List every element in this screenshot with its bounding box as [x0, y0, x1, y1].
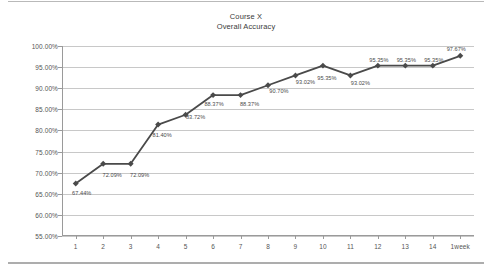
x-axis-tick	[350, 236, 351, 239]
data-point-label: 97.67%	[447, 46, 466, 52]
x-axis-tick-label: 14	[429, 243, 436, 251]
data-point-label: 95.35%	[369, 57, 388, 63]
x-axis-tick-label: 12	[374, 243, 381, 251]
chart-page: Course X Overall Accuracy 100.00%95.00%9…	[0, 0, 492, 276]
y-axis-tick-label: 85.00%	[4, 106, 58, 113]
y-axis-tick	[58, 236, 62, 237]
y-axis-tick-label: 75.00%	[4, 148, 58, 155]
top-divider-rule	[8, 1, 484, 2]
chart-title-line2: Overall Accuracy	[0, 22, 492, 32]
accuracy-line-series	[62, 46, 474, 236]
y-axis-tick-label: 80.00%	[4, 127, 58, 134]
x-axis-tick	[295, 236, 296, 239]
x-axis-tick	[405, 236, 406, 239]
data-point-marker	[293, 73, 299, 79]
data-point-marker	[402, 63, 408, 69]
data-point-label: 83.72%	[186, 114, 205, 120]
data-point-label: 90.70%	[269, 88, 288, 94]
x-axis-tick-label: 13	[402, 243, 409, 251]
x-axis-tick	[186, 236, 187, 239]
data-point-label: 95.35%	[317, 75, 336, 81]
y-axis-labels: 100.00%95.00%90.00%85.00%80.00%75.00%70.…	[0, 46, 58, 236]
chart-title-block: Course X Overall Accuracy	[0, 12, 492, 32]
data-point-marker	[430, 63, 436, 69]
y-axis-tick-label: 65.00%	[4, 190, 58, 197]
x-axis-tick	[103, 236, 104, 239]
x-axis-tick-label: 9	[294, 243, 298, 251]
bottom-divider-rule	[8, 262, 484, 264]
data-point-marker	[347, 73, 353, 79]
x-axis-tick-label: 4	[156, 243, 160, 251]
y-axis-tick-label: 95.00%	[4, 64, 58, 71]
plot-area: 67.44%72.09%72.09%81.40%83.72%88.37%88.3…	[62, 46, 474, 236]
data-point-label: 72.09%	[103, 172, 122, 178]
x-axis-tick-label: 2	[101, 243, 105, 251]
x-axis-tick	[213, 236, 214, 239]
x-axis-tick	[460, 236, 461, 239]
data-point-label: 93.02%	[296, 79, 315, 85]
x-axis-tick-label: 1	[74, 243, 78, 251]
data-point-marker	[375, 63, 381, 69]
y-axis-tick-label: 60.00%	[4, 211, 58, 218]
x-axis-tick	[241, 236, 242, 239]
x-axis-tick-label: 11	[347, 243, 354, 251]
data-point-label: 67.44%	[72, 190, 91, 196]
data-point-label: 81.40%	[152, 132, 171, 138]
x-axis-tick	[323, 236, 324, 239]
data-point-label: 88.37%	[204, 101, 223, 107]
x-axis-tick	[158, 236, 159, 239]
x-axis-tick-label: 1week	[451, 243, 470, 251]
data-point-label: 88.37%	[240, 101, 259, 107]
x-axis-tick-label: 8	[266, 243, 270, 251]
x-axis-tick	[378, 236, 379, 239]
x-axis-tick-label: 7	[239, 243, 243, 251]
data-point-label: 95.35%	[424, 57, 443, 63]
x-axis-tick	[268, 236, 269, 239]
chart-title-line1: Course X	[230, 12, 262, 21]
data-point-marker	[320, 63, 326, 69]
data-point-marker	[238, 92, 244, 98]
x-axis-tick-label: 5	[184, 243, 188, 251]
x-axis-tick	[131, 236, 132, 239]
data-point-label: 93.02%	[351, 80, 370, 86]
x-axis-tick-label: 10	[319, 243, 326, 251]
data-point-marker	[457, 53, 463, 59]
y-axis-tick-label: 55.00%	[4, 233, 58, 240]
x-axis-tick-label: 3	[129, 243, 133, 251]
x-axis-tick	[433, 236, 434, 239]
x-axis-tick-label: 6	[211, 243, 215, 251]
x-axis-tick	[76, 236, 77, 239]
data-point-label: 72.09%	[130, 172, 149, 178]
y-axis-tick-label: 100.00%	[4, 43, 58, 50]
y-axis-tick-label: 70.00%	[4, 169, 58, 176]
data-point-label: 95.35%	[397, 57, 416, 63]
y-axis-tick-label: 90.00%	[4, 85, 58, 92]
